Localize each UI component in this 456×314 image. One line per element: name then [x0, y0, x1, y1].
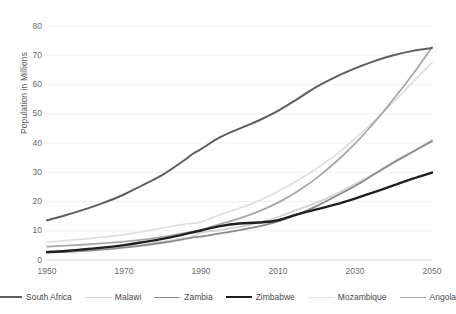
series-line-zambia [47, 141, 432, 252]
y-tick-label: 50 [18, 109, 42, 118]
series-lines [47, 47, 432, 253]
plot-area [47, 26, 432, 260]
x-tick-label: 2030 [333, 267, 377, 276]
x-tick-label: 2050 [410, 267, 454, 276]
x-tick-label: 2010 [256, 267, 300, 276]
chart-legend: South AfricaMalawiZambiaZimbabweMozambiq… [0, 286, 452, 308]
y-tick-label: 20 [18, 197, 42, 206]
legend-line-swatch [85, 297, 111, 298]
y-tick-label: 40 [18, 139, 42, 148]
y-tick-label: 60 [18, 80, 42, 89]
legend-item-south-africa[interactable]: South Africa [0, 293, 72, 302]
legend-item-zambia[interactable]: Zambia [154, 293, 212, 302]
legend-line-swatch [0, 296, 22, 298]
legend-label: South Africa [26, 293, 72, 302]
legend-line-swatch [400, 297, 426, 298]
x-tick-label: 1990 [179, 267, 223, 276]
x-tick-label: 1970 [102, 267, 146, 276]
legend-item-mozambique[interactable]: Mozambique [308, 293, 387, 302]
series-line-zimbabwe [47, 173, 432, 253]
legend-label: Angola [430, 293, 456, 302]
legend-label: Zimbabwe [256, 293, 295, 302]
y-tick-label: 80 [18, 22, 42, 31]
series-line-angola [47, 47, 432, 246]
legend-label: Malawi [115, 293, 141, 302]
legend-item-zimbabwe[interactable]: Zimbabwe [226, 293, 295, 302]
x-tick-label: 1950 [25, 267, 69, 276]
legend-line-swatch [308, 297, 334, 298]
legend-item-angola[interactable]: Angola [400, 293, 456, 302]
y-tick-label: 0 [18, 256, 42, 265]
series-line-malawi [47, 140, 432, 251]
legend-item-malawi[interactable]: Malawi [85, 293, 141, 302]
y-tick-label: 30 [18, 168, 42, 177]
legend-label: Mozambique [338, 293, 387, 302]
legend-line-swatch [154, 297, 180, 298]
legend-line-swatch [226, 296, 252, 298]
series-line-mozambique [47, 63, 432, 242]
series-canvas [47, 26, 432, 260]
series-line-south-africa [47, 48, 432, 220]
legend-label: Zambia [184, 293, 212, 302]
y-tick-label: 10 [18, 226, 42, 235]
y-tick-label: 70 [18, 51, 42, 60]
